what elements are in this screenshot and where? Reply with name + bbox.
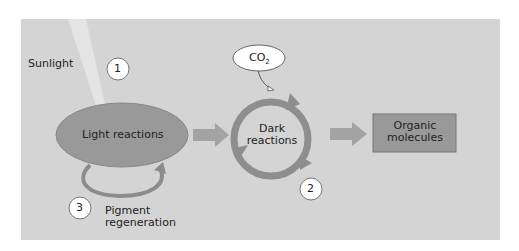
- organic-molecules-label: Organicmolecules: [375, 120, 455, 144]
- dark-line2: reactions: [245, 135, 299, 147]
- light-reactions-label: Light reactions: [82, 129, 164, 141]
- co2-subscript: 2: [265, 58, 269, 66]
- pigment-regeneration-label: Pigmentregeneration: [105, 205, 176, 229]
- step-3-label: 3: [76, 202, 83, 214]
- co2-connector: [258, 70, 271, 89]
- organic-line2: molecules: [375, 132, 455, 144]
- pigment-regeneration-loop: [83, 165, 162, 196]
- dark-reactions-label: Darkreactions: [245, 123, 299, 147]
- step-1-label: 1: [114, 63, 121, 75]
- pigment-line2: regeneration: [105, 217, 176, 229]
- sunlight-beam: [68, 19, 106, 112]
- arrow-dark-to-organic: [330, 122, 367, 146]
- sunlight-label: Sunlight: [28, 58, 73, 70]
- step-2-label: 2: [307, 183, 314, 195]
- co2-label: CO2: [249, 52, 270, 68]
- co2-text: CO: [249, 51, 265, 64]
- arrow-light-to-dark: [193, 123, 229, 147]
